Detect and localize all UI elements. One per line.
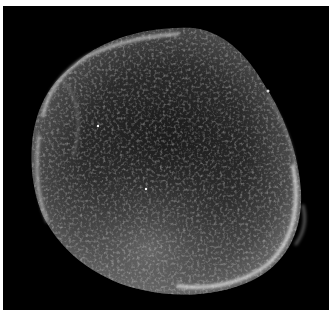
astronomical-image [3,6,329,310]
remnant-shell [3,6,329,310]
